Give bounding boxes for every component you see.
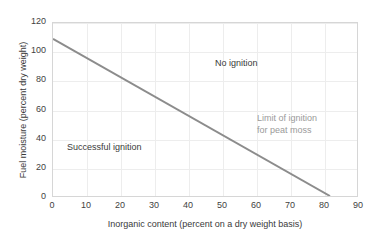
x-tick-label: 20 [108,200,132,211]
annotation-no-ignition: No ignition [215,57,258,69]
x-tick-label: 90 [346,200,370,211]
x-tick-label: 60 [244,200,268,211]
x-tick-label: 80 [312,200,336,211]
y-axis-title: Fuel moisture (percent dry weight) [18,20,28,200]
annotation-limit-line-1: Limit of ignition [257,113,317,123]
annotation-limit-of-ignition: Limit of ignitionfor peat moss [257,112,317,136]
annotation-successful-ignition: Successful ignition [67,141,142,153]
x-axis-title: Inorganic content (percent on a dry weig… [52,219,358,229]
x-tick-label: 30 [142,200,166,211]
annotation-limit-line-2: for peat moss [257,125,312,135]
x-tick-label: 40 [176,200,200,211]
x-tick-label: 10 [74,200,98,211]
plot-area: No ignition Successful ignition Limit of… [52,22,358,197]
chart-figure: No ignition Successful ignition Limit of… [0,0,384,241]
series-layer [53,23,357,196]
x-tick-label: 70 [278,200,302,211]
x-tick-label: 50 [210,200,234,211]
